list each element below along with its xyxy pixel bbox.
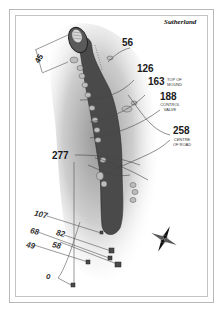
course-name: Sutherland	[164, 18, 196, 26]
tee-58: 58	[51, 241, 61, 251]
yardage-163: 163	[148, 77, 165, 87]
note-top-of-mound: TOP OF MOUND	[167, 78, 185, 87]
hole-map	[0, 0, 224, 315]
yardage-56: 56	[122, 38, 133, 48]
yardage-277: 277	[52, 151, 69, 161]
tee-49: 49	[25, 241, 35, 251]
yardage-188: 188	[160, 92, 177, 102]
note-control-valve: CONTROL VALVE	[158, 103, 182, 112]
yardage-126: 126	[137, 64, 154, 74]
tee-82: 82	[55, 229, 65, 239]
tee-0: 0	[46, 273, 50, 281]
note-centre-of-road: CENTRE OF ROAD	[172, 138, 192, 147]
yardage-258: 258	[173, 126, 190, 136]
tee-68: 68	[29, 227, 39, 237]
